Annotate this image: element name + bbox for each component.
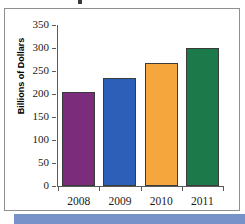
page-accent-band-notch bbox=[0, 219, 14, 224]
y-tick-mark bbox=[52, 140, 56, 141]
cropped-text-mark bbox=[78, 0, 82, 4]
y-axis-title: Billions of Dollars bbox=[16, 16, 26, 136]
y-tick-label: 0 bbox=[44, 179, 50, 191]
plot-area bbox=[58, 25, 223, 186]
y-tick-label: 250 bbox=[33, 64, 50, 76]
x-tick-label-2011: 2011 bbox=[182, 195, 223, 207]
bar-2010 bbox=[145, 63, 178, 186]
y-tick-mark bbox=[52, 71, 56, 72]
x-tick-mark bbox=[58, 187, 59, 191]
y-tick-mark bbox=[52, 48, 56, 49]
chart-frame: Billions of Dollars 05010015020025030035… bbox=[4, 8, 240, 211]
bar-2009 bbox=[103, 78, 136, 186]
bar-2011 bbox=[186, 48, 219, 186]
x-tick-mark bbox=[141, 187, 142, 191]
y-tick-label: 200 bbox=[33, 87, 50, 99]
x-tick-mark bbox=[182, 187, 183, 191]
x-tick-label-2009: 2009 bbox=[99, 195, 140, 207]
y-tick-mark bbox=[52, 186, 56, 187]
y-tick-label: 150 bbox=[33, 110, 50, 122]
page-accent-band bbox=[14, 214, 245, 224]
bar-2008 bbox=[62, 92, 95, 186]
y-tick-mark bbox=[52, 117, 56, 118]
y-tick-label: 50 bbox=[38, 156, 49, 168]
x-tick-mark bbox=[223, 187, 224, 191]
y-tick-mark bbox=[52, 25, 56, 26]
y-tick-mark bbox=[52, 94, 56, 95]
y-tick-label: 100 bbox=[33, 133, 50, 145]
y-tick-mark bbox=[52, 163, 56, 164]
x-tick-label-2008: 2008 bbox=[58, 195, 99, 207]
x-tick-mark bbox=[99, 187, 100, 191]
x-tick-label-2010: 2010 bbox=[141, 195, 182, 207]
y-tick-label: 350 bbox=[33, 18, 50, 30]
chart-figure: Billions of Dollars 05010015020025030035… bbox=[0, 0, 245, 224]
y-tick-label: 300 bbox=[33, 41, 50, 53]
